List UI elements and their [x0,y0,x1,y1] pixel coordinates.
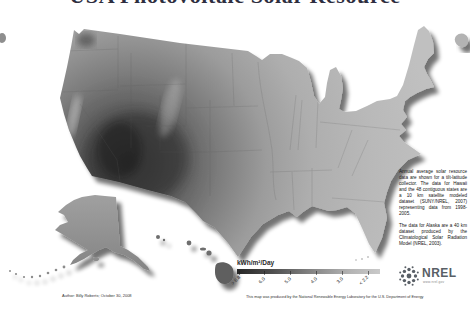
nrel-logo: NREL www.nrel.gov [397,261,467,291]
northeast-coast-fragment [455,34,468,48]
produced-by-credit: This map was produced by the National Re… [246,295,424,299]
nrel-wordmark: NREL [422,266,457,280]
solar-resource-map-page: USA Photovoltaic Solar Resource [0,0,470,313]
legend-unit-label: kWh/m²/Day [237,259,274,266]
nrel-sun-icon [397,263,421,289]
nrel-website: www.nrel.gov [423,280,444,284]
florida-keys [355,256,369,260]
data-source-notes: Annual average solar resource data are s… [399,169,467,252]
data-note-contiguous: Annual average solar resource data are s… [399,169,467,218]
author-credit: Author: Billy Roberts; October 30, 2008 [62,293,132,298]
alaska-landmass [9,195,150,278]
data-note-alaska: The data for Alaska are a 40 km dataset … [399,223,467,247]
legend-gradient-bar [237,269,380,274]
hawaii-islands [156,235,234,284]
west-edge-fragment [0,33,6,43]
